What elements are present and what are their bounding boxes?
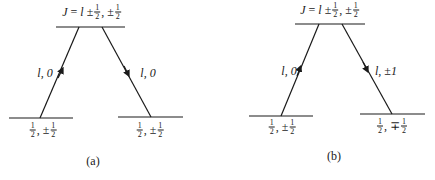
panel-b-right-arrow-icon [363,62,367,70]
panel-b-left-transition-label: l, 0 [281,65,296,77]
panel-b-lines [249,24,425,116]
panel-b-right-transition-label: l, ±1 [375,65,397,77]
panel-a-right-arrow-icon [124,66,128,74]
panel-a-bottom-right-label: 12, ±12 [136,123,165,140]
panel-b-bottom-right-label: 12, ∓12 [376,119,408,136]
panel-a-top-level-label: J = l ±12, ±12 [62,5,122,22]
panel-b-bottom-left-label: 12, ±12 [268,120,297,137]
panel-b-top-level-label: J = l ±12, ±12 [300,3,360,20]
panel-a-lines [9,27,183,118]
panel-a-bottom-left-label: 12, ±12 [29,123,58,140]
panel-a-right-transition-label: l, 0 [140,67,155,79]
panel-a-caption: (a) [86,154,99,169]
panel-a-left-transition-label: l, 0 [37,67,52,79]
level-diagram-canvas [0,0,435,180]
panel-b-caption: (b) [327,149,341,164]
